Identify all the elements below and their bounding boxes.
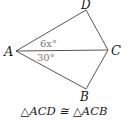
- vertex-label-C: C: [111, 43, 121, 58]
- vertex-label-D: D: [80, 0, 91, 12]
- angle-label-DAC: 6x°: [40, 38, 57, 49]
- vertex-label-A: A: [3, 44, 13, 59]
- segment-AC: [16, 50, 108, 51]
- vertex-label-B: B: [79, 90, 89, 104]
- congruence-caption: △ACD ≅ △ACB: [21, 104, 108, 118]
- segment-DC: [86, 10, 108, 50]
- angle-label-CAB: 30°: [37, 52, 55, 63]
- segment-BC: [86, 50, 108, 89]
- congruent-triangles-diagram: A D C B 6x° 30° △ACD ≅ △ACB: [0, 0, 128, 121]
- triangle-edges: [16, 10, 108, 89]
